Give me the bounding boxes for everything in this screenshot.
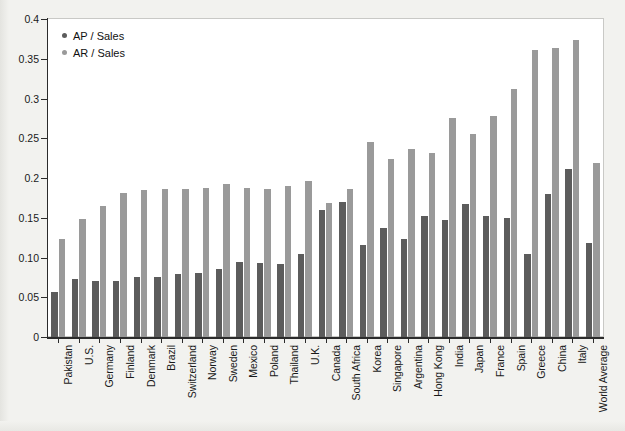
bar-ap-sales (92, 281, 98, 337)
bar-ar-sales (532, 50, 538, 337)
x-axis-tick-mark (120, 339, 121, 343)
bar-ap-sales (298, 254, 304, 337)
x-axis-category-label: Hong Kong (432, 345, 444, 397)
bar-ar-sales (59, 239, 65, 337)
y-axis-tick-label: 0.2 (1, 172, 39, 184)
x-axis-tick-mark (326, 339, 327, 343)
bar-ar-sales (326, 203, 332, 337)
x-axis-tick-mark (264, 339, 265, 343)
x-axis-category-label: Japan (473, 345, 485, 373)
bar-ap-sales (462, 204, 468, 337)
bar-ap-sales (113, 281, 119, 337)
bar-ar-sales (593, 163, 599, 337)
x-axis-category-label: Denmark (145, 345, 157, 387)
x-axis-tick-mark (202, 339, 203, 343)
y-axis-tick-label: 0.25 (1, 132, 39, 144)
x-axis-category-label: India (453, 345, 465, 367)
bar-ap-sales (154, 277, 160, 337)
legend-label-ar: AR / Sales (73, 47, 125, 59)
bar-ar-sales (182, 189, 188, 337)
bar-ar-sales (264, 189, 270, 337)
chart-legend: AP / Sales AR / Sales (62, 28, 125, 62)
x-axis-tick-mark (161, 339, 162, 343)
bar-ap-sales (421, 216, 427, 337)
x-axis-category-label: Finland (124, 345, 136, 379)
x-axis-category-label: Argentina (412, 345, 424, 389)
bar-ap-sales (175, 274, 181, 337)
y-axis-tick-label: 0.05 (1, 291, 39, 303)
x-axis-tick-mark (99, 339, 100, 343)
x-axis-category-label: South Africa (350, 345, 362, 400)
bar-ap-sales (545, 194, 551, 337)
x-axis-category-label: Mexico (247, 345, 259, 378)
x-axis-tick-mark (367, 339, 368, 343)
bar-ap-sales (51, 292, 57, 337)
bar-ap-sales (134, 277, 140, 337)
bar-ar-sales (79, 219, 85, 337)
bar-ar-sales (408, 149, 414, 337)
x-axis-tick-mark (572, 339, 573, 343)
bar-ap-sales (524, 254, 530, 337)
x-axis-tick-mark (346, 339, 347, 343)
bar-ar-sales (100, 206, 106, 337)
bar-ap-sales (72, 279, 78, 337)
bar-ar-sales (490, 116, 496, 337)
x-axis-tick-mark (449, 339, 450, 343)
x-axis-tick-mark (511, 339, 512, 343)
x-axis-tick-mark (552, 339, 553, 343)
bar-ar-sales (120, 193, 126, 337)
x-axis-category-label: Italy (576, 345, 588, 364)
bar-ar-sales (162, 189, 168, 337)
bar-ap-sales (257, 263, 263, 337)
x-axis-category-label: Spain (515, 345, 527, 371)
bar-ar-sales (552, 48, 558, 337)
x-axis-category-label: Poland (268, 345, 280, 377)
x-axis-tick-mark (284, 339, 285, 343)
legend-marker-icon-ar (62, 50, 67, 55)
y-axis-tick-label: 0 (1, 331, 39, 343)
x-axis-tick-mark (469, 339, 470, 343)
x-axis-tick-mark (305, 339, 306, 343)
x-axis-category-label: Switzerland (186, 345, 198, 398)
x-axis-category-label: Singapore (391, 345, 403, 392)
bar-ap-sales (442, 220, 448, 337)
bar-ap-sales (319, 210, 325, 337)
plot-area (48, 19, 603, 337)
bar-ap-sales (401, 239, 407, 337)
bar-ar-sales (429, 153, 435, 337)
x-axis-tick-mark (408, 339, 409, 343)
bar-ap-sales (216, 269, 222, 337)
bar-ar-sales (223, 184, 229, 337)
bar-ap-sales (380, 228, 386, 337)
legend-item-ar-sales: AR / Sales (62, 45, 125, 60)
y-axis-tick-labels: 0.40.350.30.250.20.150.100.050 (0, 0, 39, 431)
legend-marker-icon-ap (62, 33, 67, 38)
bar-ap-sales (586, 243, 592, 337)
bar-ar-sales (573, 40, 579, 337)
bar-ap-sales (483, 216, 489, 337)
x-axis-category-label: Greece (535, 345, 547, 379)
x-axis-category-label: Brazil (165, 345, 177, 371)
x-axis-tick-mark (58, 339, 59, 343)
bar-ar-sales (141, 190, 147, 337)
x-axis-category-label: Canada (330, 345, 342, 381)
y-axis-tick-label: 0.15 (1, 212, 39, 224)
x-axis-tick-mark (223, 339, 224, 343)
bar-ar-sales (511, 89, 517, 337)
x-axis-tick-mark (387, 339, 388, 343)
y-axis-tick-label: 0.10 (1, 252, 39, 264)
page-edge-bottom (0, 421, 625, 431)
bar-ar-sales (244, 188, 250, 337)
x-axis-category-label: Pakistan (62, 345, 74, 384)
x-axis-tick-mark (182, 339, 183, 343)
y-axis-tick-label: 0.35 (1, 53, 39, 65)
x-axis-category-label: World Average (597, 345, 609, 412)
chart-figure: 0.40.350.30.250.20.150.100.050 PakistanU… (0, 0, 625, 431)
bar-ar-sales (305, 181, 311, 337)
x-axis-category-label: U.K. (309, 345, 321, 365)
x-axis-category-label: France (494, 345, 506, 377)
x-axis-category-label: Korea (371, 345, 383, 373)
y-axis-tick-label: 0.3 (1, 93, 39, 105)
legend-label-ap: AP / Sales (73, 30, 124, 42)
bar-ap-sales (360, 245, 366, 337)
